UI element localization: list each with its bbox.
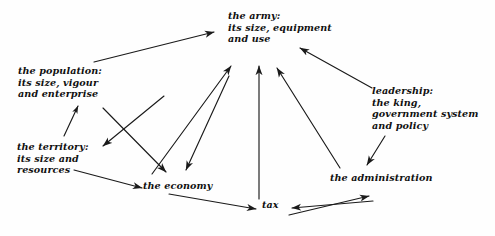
- edge-population-economy: [103, 108, 166, 172]
- edge-population-army: [94, 32, 214, 62]
- node-tax[interactable]: tax: [262, 199, 279, 211]
- node-administration[interactable]: the administration: [330, 172, 433, 184]
- node-population[interactable]: the population: its size, vigour and ent…: [18, 65, 102, 100]
- edge-army-economy: [186, 76, 229, 170]
- node-leadership[interactable]: leadership: the king, government system …: [372, 85, 479, 131]
- node-territory[interactable]: the territory: its size and resources: [17, 141, 89, 176]
- node-army[interactable]: the army: its size, equipment and use: [228, 10, 332, 45]
- node-economy[interactable]: the economy: [143, 180, 212, 192]
- edge-economy-tax: [169, 194, 256, 209]
- edge-leadership-administration: [367, 136, 385, 165]
- edge-administration-army: [277, 68, 340, 168]
- edge-administration-tax-in: [292, 201, 373, 208]
- edge-territory-population: [64, 106, 78, 136]
- concept-diagram: the army: its size, equipment and use th…: [0, 0, 495, 236]
- edge-tax-administration-out: [289, 196, 369, 215]
- edge-leadership-army: [300, 48, 372, 88]
